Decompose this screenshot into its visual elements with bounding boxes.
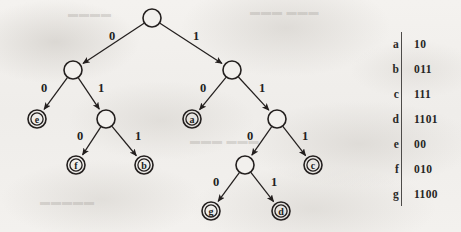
internal-node-root <box>143 9 161 27</box>
leaf-symbol-label: f <box>74 160 78 171</box>
code-bits: 111 <box>406 88 431 100</box>
code-bits: 00 <box>406 138 426 150</box>
code-bits: 010 <box>406 163 432 175</box>
leaf-node-f: f <box>67 156 85 174</box>
internal-node-n1 <box>223 61 241 79</box>
edge-bit-label: 1 <box>271 175 277 189</box>
code-bits: 1101 <box>406 113 438 125</box>
leaf-node-d: d <box>272 202 290 220</box>
edge-bit-label: 1 <box>193 29 199 43</box>
node-layer: eafbcgd <box>28 9 322 220</box>
tree-edge-n0-to-n01 <box>78 78 99 109</box>
code-bits: 1100 <box>406 188 438 200</box>
figure-canvas: ▬▬▬▬ ▬▬▬ ▬▬▬ ▬▬▬ ▬▬▬ ▬▬▬▬▬ eafbcgd 01010… <box>0 0 461 232</box>
edge-layer <box>44 23 305 201</box>
leaf-symbol-label: c <box>311 160 316 171</box>
tree-edge-n110-to-g <box>218 173 239 202</box>
leaf-node-e: e <box>28 110 46 128</box>
tree-edge-n01-to-b <box>112 126 136 155</box>
edge-bit-label: 1 <box>259 81 265 95</box>
leaf-symbol-label: a <box>190 114 195 125</box>
code-table: a10b011c111d1101e00f010g1100 <box>382 34 454 204</box>
edge-bit-label: 0 <box>41 81 47 95</box>
internal-node-n01 <box>97 110 115 128</box>
tree-edge-n0-to-e <box>44 78 67 110</box>
edge-bit-label: 0 <box>247 129 253 143</box>
tree-edge-n01-to-f <box>83 127 101 155</box>
leaf-node-g: g <box>202 202 220 220</box>
code-symbol: a <box>382 38 406 50</box>
leaf-symbol-label: b <box>141 160 147 171</box>
code-symbol: d <box>382 113 406 125</box>
edge-bit-label: 1 <box>98 81 104 95</box>
code-table-row: a10 <box>382 34 454 54</box>
internal-node-n0 <box>64 61 82 79</box>
code-symbol: e <box>382 138 406 150</box>
code-symbol: c <box>382 88 406 100</box>
tree-edge-n11-to-n110 <box>252 127 272 155</box>
code-table-row: d1101 <box>382 109 454 129</box>
code-symbol: g <box>382 188 406 200</box>
edge-bit-label: 0 <box>109 29 115 43</box>
edge-bit-label: 0 <box>77 129 83 143</box>
internal-node-n11 <box>268 110 286 128</box>
leaf-symbol-label: e <box>35 114 40 125</box>
code-table-row: e00 <box>382 134 454 154</box>
leaf-node-a: a <box>183 110 201 128</box>
edge-bit-label: 0 <box>213 175 219 189</box>
edge-bit-label: 0 <box>200 81 206 95</box>
code-table-row: b011 <box>382 59 454 79</box>
leaf-node-c: c <box>304 156 322 174</box>
code-table-row: g1100 <box>382 184 454 204</box>
leaf-symbol-label: d <box>278 206 284 217</box>
code-bits: 011 <box>406 63 432 75</box>
leaf-node-b: b <box>135 156 153 174</box>
edge-bit-label: 1 <box>135 129 141 143</box>
edge-bit-label: 1 <box>302 129 308 143</box>
code-table-row: c111 <box>382 84 454 104</box>
code-table-row: f010 <box>382 159 454 179</box>
code-symbol: b <box>382 63 406 75</box>
tree-edge-root-to-n1 <box>160 23 222 63</box>
internal-node-n110 <box>236 156 254 174</box>
leaf-symbol-label: g <box>209 206 214 217</box>
code-symbol: f <box>382 163 406 175</box>
code-bits: 10 <box>406 38 426 50</box>
